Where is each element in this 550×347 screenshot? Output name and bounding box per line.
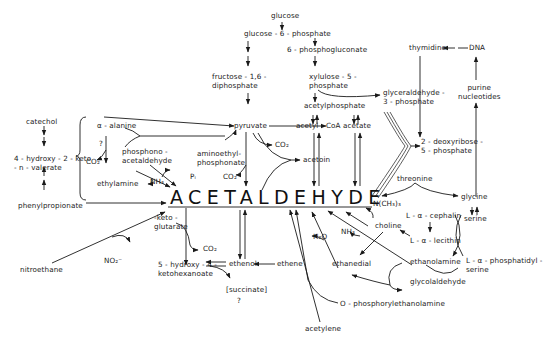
glyceraldehyde-line-2: 3 - phosphate <box>383 98 445 107</box>
node-acetoin: acetoin <box>303 156 330 165</box>
node-alpha-ketoglutarate: -keto - glutarate <box>154 214 188 231</box>
node-glycolaldehyde: glycolaldehyde <box>410 278 466 287</box>
node-xylulose-5-phosphate: xylulose - 5 - phosphate <box>309 73 357 90</box>
node-l-alpha-phosphatidylserine: L - α - phosphatidyl - serine <box>466 257 543 274</box>
node-acetylene: acetylene <box>305 325 341 334</box>
node-pi: Pᵢ <box>190 173 196 182</box>
node-trimethylamine: N(CH₃)₃ <box>373 200 401 209</box>
node-h2o: H₂O <box>313 233 327 242</box>
node-nh3-1: NH₃ <box>150 178 164 187</box>
node-dna: DNA <box>469 44 485 53</box>
pathway-arrows <box>0 0 550 347</box>
node-co2-2: CO₂ <box>275 141 289 150</box>
node-phenylpropionate: phenylpropionate <box>18 202 83 211</box>
node-l-alpha-lecithin: L - α - lecithin <box>410 237 461 246</box>
node-acetylphosphate: acetylphosphate <box>304 102 365 111</box>
node-l-alpha-cephalin: L - α - cephalin <box>406 212 461 221</box>
node-serine: serine <box>464 215 487 224</box>
node-acetaldehyde: ACETALDEHYDE <box>170 186 386 208</box>
purine-line-2: nucleotides <box>458 93 501 102</box>
xylulose-line-2: phosphate <box>309 82 357 91</box>
ketoglutarate-line-2: glutarate <box>154 223 188 232</box>
node-glyceraldehyde-3-phosphate: glyceraldehyde - 3 - phosphate <box>383 89 445 106</box>
ketohexanoate-line-2: ketohexanoate <box>158 270 217 279</box>
node-nitrite: NO₂⁻ <box>104 257 122 266</box>
node-glycine: glycine <box>461 193 487 202</box>
node-alpha-alanine: α - alanine <box>97 122 136 131</box>
phosphono-line-2: acetaldehyde <box>122 157 172 166</box>
node-ethene: ethene <box>277 260 303 269</box>
node-ethylamine: ethylamine <box>97 180 138 189</box>
aminoethyl-line-2: phosphonate <box>197 159 245 168</box>
node-glucose-6-phosphate: glucose - 6 - phosphate <box>244 30 331 39</box>
acetaldehyde-metabolic-pathway-diagram: glucose glucose - 6 - phosphate 6 - phos… <box>0 0 550 347</box>
node-threonine: threonine <box>397 175 432 184</box>
node-phosphonoacetaldehyde: phosphono - acetaldehyde <box>122 148 172 165</box>
node-o-phosphorylethanolamine: O - phosphorylethanolamine <box>340 300 445 309</box>
node-thymidine: thymidine <box>409 44 446 53</box>
node-ethenol: ethenol <box>229 260 257 269</box>
node-2-deoxyribose-5-phosphate: 2 - deoxyribose - 5 - phosphate <box>421 138 483 155</box>
valerate-line-2: - n - valerate <box>14 164 91 173</box>
node-6-phosphogluconate: 6 - phosphogluconate <box>287 46 367 55</box>
node-co2-1: CO₂ <box>86 158 100 167</box>
deoxyribose-line-2: 5 - phosphate <box>421 147 483 156</box>
node-pyruvate: pyruvate <box>234 122 267 131</box>
node-nitroethane: nitroethane <box>20 266 63 275</box>
node-catechol: catechol <box>26 118 57 127</box>
fructose-line-2: diphosphate <box>212 82 266 91</box>
node-5-hydroxy-4-ketohexanoate: 5 - hydroxy - 4 - ketohexanoate <box>158 261 217 278</box>
phosphatidylserine-line-2: serine <box>466 266 543 275</box>
node-question-mark-1: ? <box>99 140 103 149</box>
node-nh3-2: NH₃ <box>341 228 355 237</box>
node-acetyl-coa: acetyl - CoA <box>296 122 341 131</box>
node-ethanedial: ethanedial <box>332 260 371 269</box>
node-fructose-1-6-diphosphate: fructose - 1,6 - diphosphate <box>212 73 266 90</box>
node-choline: choline <box>375 222 402 231</box>
node-co2-3: CO₂ <box>223 173 237 182</box>
node-glucose: glucose <box>271 12 299 21</box>
node-succinate: [succinate] <box>226 286 267 295</box>
node-question-mark-2: ? <box>237 297 241 306</box>
node-4-hydroxy-2-keto-n-valerate: 4 - hydroxy - 2 - keto - n - valerate <box>14 155 91 172</box>
node-co2-4: CO₂ <box>203 245 217 254</box>
node-acetate: acetate <box>343 122 371 131</box>
node-ethanolamine: ethanolamine <box>410 258 461 267</box>
node-purine-nucleotides: purine nucleotides <box>458 84 501 101</box>
node-aminoethylphosphonate: aminoethyl- phosphonate <box>197 150 245 167</box>
